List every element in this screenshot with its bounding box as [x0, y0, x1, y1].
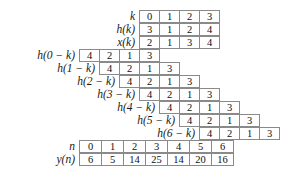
table-cell: 1: [179, 88, 200, 101]
table-cell: 16: [211, 153, 234, 166]
table-cell: 1: [159, 36, 180, 49]
row-label-y-n: y(n): [56, 153, 79, 166]
table-cell: 2: [99, 49, 120, 62]
row-flipped-2: h(2 − k)4213: [119, 75, 199, 88]
table-cell: 3: [139, 23, 160, 36]
row-k: k0123: [139, 10, 219, 23]
table-cell: 0: [139, 10, 160, 23]
table-cell: 5: [101, 153, 124, 166]
table-cell: 4: [167, 140, 190, 153]
table-cell: 5: [189, 140, 212, 153]
row-label-flipped-4: h(4 − k): [117, 101, 159, 114]
table-cell: 3: [179, 36, 200, 49]
table-cell: 1: [119, 49, 140, 62]
row-label-k: k: [130, 10, 139, 23]
table-cell: 3: [145, 140, 168, 153]
table-cell: 2: [119, 62, 140, 75]
table-cell: 1: [101, 140, 124, 153]
table-cell: 6: [79, 153, 102, 166]
table-cell: 6: [211, 140, 234, 153]
table-cell: 3: [199, 88, 220, 101]
table-cell: 1: [199, 101, 220, 114]
row-label-flipped-6: h(6 − k): [157, 127, 199, 140]
table-cell: 2: [139, 75, 160, 88]
row-label-flipped-1: h(1 − k): [57, 62, 99, 75]
table-cell: 3: [259, 127, 280, 140]
table-cell: 1: [239, 127, 260, 140]
row-y-n: y(n)651425142016: [79, 153, 233, 166]
table-cell: 3: [179, 75, 200, 88]
table-cell: 2: [179, 23, 200, 36]
table-cell: 4: [179, 114, 200, 127]
row-label-n: n: [69, 140, 79, 153]
table-cell: 14: [123, 153, 146, 166]
table-cell: 2: [219, 127, 240, 140]
table-cell: 4: [199, 36, 220, 49]
table-cell: 4: [159, 101, 180, 114]
row-flipped-5: h(5 − k)4213: [179, 114, 259, 127]
table-cell: 2: [179, 101, 200, 114]
row-label-x-k: x(k): [117, 36, 139, 49]
row-flipped-1: h(1 − k)4213: [99, 62, 179, 75]
table-cell: 4: [119, 75, 140, 88]
table-cell: 1: [139, 62, 160, 75]
table-cell: 4: [99, 62, 120, 75]
row-h-k: h(k)3124: [139, 23, 219, 36]
table-cell: 1: [219, 114, 240, 127]
table-cell: 4: [199, 127, 220, 140]
table-cell: 3: [199, 10, 220, 23]
table-cell: 2: [123, 140, 146, 153]
row-label-flipped-5: h(5 − k): [137, 114, 179, 127]
table-cell: 14: [167, 153, 190, 166]
row-label-flipped-3: h(3 − k): [97, 88, 139, 101]
table-cell: 3: [139, 49, 160, 62]
table-cell: 20: [189, 153, 212, 166]
convolution-table-figure: k0123h(k)3124x(k)2134h(0 − k)4213h(1 − k…: [0, 0, 290, 184]
row-flipped-0: h(0 − k)4213: [79, 49, 159, 62]
table-cell: 25: [145, 153, 168, 166]
row-n: n0123456: [79, 140, 233, 153]
table-cell: 3: [239, 114, 260, 127]
table-cell: 2: [199, 114, 220, 127]
table-cell: 4: [79, 49, 100, 62]
row-label-flipped-2: h(2 − k): [77, 75, 119, 88]
table-cell: 2: [139, 36, 160, 49]
table-cell: 2: [179, 10, 200, 23]
row-flipped-6: h(6 − k)4213: [199, 127, 279, 140]
row-x-k: x(k)2134: [139, 36, 219, 49]
row-label-h-k: h(k): [116, 23, 139, 36]
table-cell: 1: [159, 10, 180, 23]
table-cell: 1: [159, 75, 180, 88]
table-cell: 4: [139, 88, 160, 101]
table-cell: 3: [159, 62, 180, 75]
table-cell: 4: [199, 23, 220, 36]
table-cell: 0: [79, 140, 102, 153]
table-cell: 2: [159, 88, 180, 101]
row-flipped-3: h(3 − k)4213: [139, 88, 219, 101]
table-cell: 1: [159, 23, 180, 36]
row-flipped-4: h(4 − k)4213: [159, 101, 239, 114]
row-label-flipped-0: h(0 − k): [37, 49, 79, 62]
table-cell: 3: [219, 101, 240, 114]
